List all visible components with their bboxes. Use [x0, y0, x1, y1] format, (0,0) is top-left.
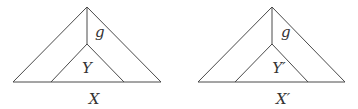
inner-label-y: Y	[82, 59, 94, 77]
outer-label-x-prime: X′	[275, 90, 291, 108]
edge-label-g-right: g	[281, 23, 291, 41]
inner-label-y-prime: Y′	[272, 59, 286, 77]
diagram-canvas: g Y X g Y′ X′	[0, 0, 358, 109]
diagram-left: g Y X	[13, 7, 161, 108]
edge-label-g: g	[95, 23, 105, 41]
diagram-right: g Y′ X′	[198, 7, 345, 108]
outer-label-x: X	[88, 90, 101, 108]
